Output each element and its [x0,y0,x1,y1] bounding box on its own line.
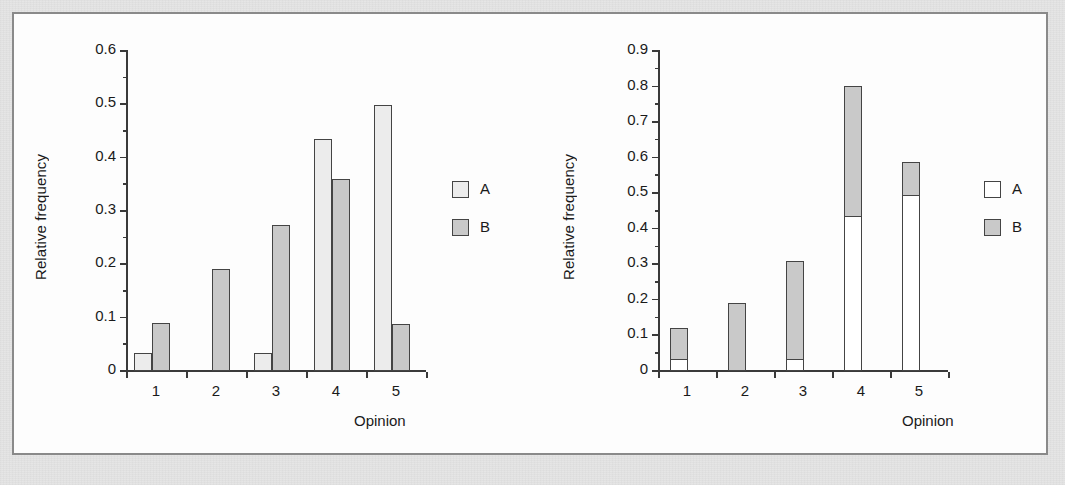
y-tick [120,157,126,159]
y-tick-label: 0.6 [48,40,116,57]
chart-panel-right: Relative frequency Opinion 00.10.20.30.4… [532,14,1050,457]
y-tick-minor [123,183,126,185]
x-tick-label: 1 [667,382,707,399]
legend-swatch-b-icon [984,219,1001,236]
bar-a-1 [670,358,689,371]
y-tick [120,210,126,212]
y-tick-label: 0.5 [580,182,648,199]
y-tick [652,192,658,194]
legend-label-b: B [480,217,490,237]
bar-b-1 [152,323,170,371]
y-tick [652,86,658,88]
x-tick-label: 4 [841,382,881,399]
y-tick-label: 0.7 [580,111,648,128]
y-tick [120,317,126,319]
legend-swatch-a-icon [452,181,469,198]
bar-a-4 [844,216,863,372]
x-tick [246,372,248,378]
x-tick-label: 4 [316,382,356,399]
legend-label-b: B [1012,217,1022,237]
y-tick [652,50,658,52]
y-tick [652,121,658,123]
x-tick-end [426,372,428,378]
y-tick-label: 0.1 [580,324,648,341]
legend-swatch-b-icon [452,219,469,236]
legend-label-a: A [480,179,490,199]
x-tick [366,372,368,378]
y-tick [652,228,658,230]
bar-a-1 [134,353,152,372]
bar-a-5 [374,105,392,372]
plot-area-right: 00.10.20.30.40.50.60.70.80.912345 [532,14,1050,457]
bar-a-5 [902,194,921,371]
y-tick-minor [655,210,658,212]
y-axis-line [126,50,128,372]
legend-swatch-a-icon [984,181,1001,198]
y-tick-label: 0.5 [48,93,116,110]
y-tick-minor [655,103,658,105]
y-tick-label: 0.3 [48,200,116,217]
bar-b-4 [844,86,863,218]
x-tick [774,372,776,378]
bar-a-4 [314,139,332,372]
y-tick [652,157,658,159]
bar-a-3 [786,359,805,372]
y-tick [120,263,126,265]
y-tick-minor [655,68,658,70]
y-tick-minor [655,246,658,248]
x-tick [126,372,128,378]
bar-b-1 [670,328,689,360]
y-tick-label: 0.6 [580,147,648,164]
y-tick-minor [123,290,126,292]
x-tick-label: 2 [196,382,236,399]
bar-b-3 [786,261,805,361]
x-tick [890,372,892,378]
y-tick-label: 0.1 [48,307,116,324]
y-tick-label: 0.3 [580,253,648,270]
x-tick-label: 3 [256,382,296,399]
x-tick [306,372,308,378]
y-tick [652,334,658,336]
y-tick-minor [123,343,126,345]
y-tick [652,263,658,265]
y-tick-minor [123,130,126,132]
bar-b-5 [392,324,410,371]
y-tick [120,50,126,52]
y-axis-line [658,50,660,372]
figure-frame: Relative frequency Opinion 00.10.20.30.4… [12,12,1048,455]
x-tick-label: 5 [376,382,416,399]
x-tick [658,372,660,378]
x-tick [716,372,718,378]
bar-b-2 [212,269,230,371]
bar-b-4 [332,179,350,372]
bar-a-3 [254,353,272,371]
x-tick-label: 5 [899,382,939,399]
y-tick-label: 0.4 [48,147,116,164]
bar-b-3 [272,225,290,372]
x-tick [186,372,188,378]
x-tick-label: 3 [783,382,823,399]
chart-panel-left: Relative frequency Opinion 00.10.20.30.4… [14,14,532,457]
y-tick-label: 0 [48,360,116,377]
y-tick-label: 0 [580,360,648,377]
y-tick [120,103,126,105]
y-tick-label: 0.2 [48,253,116,270]
bar-b-5 [902,162,921,196]
y-tick-minor [655,139,658,141]
y-tick-label: 0.4 [580,218,648,235]
x-tick-label: 2 [725,382,765,399]
y-tick-label: 0.2 [580,289,648,306]
x-tick-end [948,372,950,378]
y-tick-minor [123,237,126,239]
y-tick-label: 0.8 [580,76,648,93]
y-tick [652,299,658,301]
y-tick-label: 0.9 [580,40,648,57]
y-tick-minor [655,281,658,283]
y-tick-minor [123,77,126,79]
y-tick-minor [655,174,658,176]
x-tick-label: 1 [136,382,176,399]
bar-b-2 [728,303,747,372]
legend-label-a: A [1012,179,1022,199]
x-tick [832,372,834,378]
y-tick-minor [655,352,658,354]
